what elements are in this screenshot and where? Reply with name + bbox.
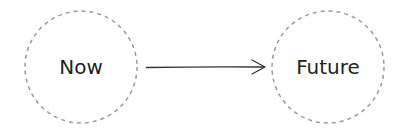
node-now[interactable]: Now <box>25 11 137 123</box>
node-future[interactable]: Future <box>272 11 384 123</box>
edge-now-to-future <box>146 60 265 74</box>
diagram-canvas: Now Future <box>0 0 405 133</box>
arrow-line <box>146 67 264 68</box>
node-now-label: Now <box>59 55 103 79</box>
node-future-label: Future <box>296 55 360 79</box>
